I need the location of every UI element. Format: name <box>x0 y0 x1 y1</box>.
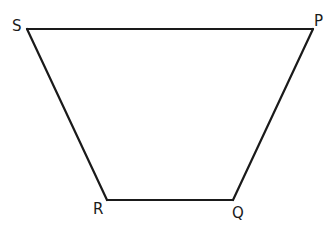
edges <box>27 29 313 200</box>
vertex-label-p: P <box>314 12 323 30</box>
vertex-label-r: R <box>93 200 103 218</box>
vertex-label-q: Q <box>232 204 244 222</box>
vertex-labels: SPQR <box>12 12 323 222</box>
edge-rs <box>27 29 107 200</box>
edge-pq <box>233 29 313 200</box>
trapezium-diagram: SPQR <box>0 0 332 239</box>
vertex-label-s: S <box>12 17 22 35</box>
